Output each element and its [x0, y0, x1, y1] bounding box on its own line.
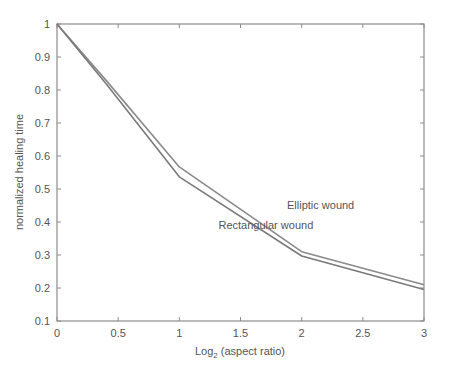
series-lines — [57, 24, 424, 290]
plot-frame — [57, 24, 424, 321]
annotation-rectangular-wound: Rectangular wound — [218, 219, 313, 231]
y-tick-label: 0.6 — [35, 150, 50, 162]
x-tick-label: 1 — [176, 327, 182, 339]
series-line-elliptic-wound — [57, 24, 424, 285]
y-tick-label: 0.8 — [35, 84, 50, 96]
y-tick-label: 0.1 — [35, 315, 50, 327]
y-tick-label: 0.9 — [35, 51, 50, 63]
y-tick-label: 1 — [44, 18, 50, 30]
y-tick-label: 0.5 — [35, 183, 50, 195]
annotation-elliptic-wound: Elliptic wound — [287, 199, 354, 211]
y-tick-label: 0.2 — [35, 282, 50, 294]
y-tick-label: 0.4 — [35, 216, 50, 228]
x-tick-label: 0.5 — [111, 327, 126, 339]
x-tick-label: 0 — [54, 327, 60, 339]
x-tick-label: 2 — [299, 327, 305, 339]
x-axis-label: Log2 (aspect ratio) — [195, 345, 285, 360]
y-tick-label: 0.3 — [35, 249, 50, 261]
line-chart: 00.511.522.530.10.20.30.40.50.60.70.80.9… — [0, 0, 450, 370]
series-line-rectangular-wound — [57, 24, 424, 290]
y-axis-label: normalized healing time — [13, 114, 25, 230]
y-tick-label: 0.7 — [35, 117, 50, 129]
x-tick-label: 3 — [421, 327, 427, 339]
x-tick-label: 2.5 — [355, 327, 370, 339]
axes-box — [57, 24, 424, 321]
x-tick-label: 1.5 — [233, 327, 248, 339]
